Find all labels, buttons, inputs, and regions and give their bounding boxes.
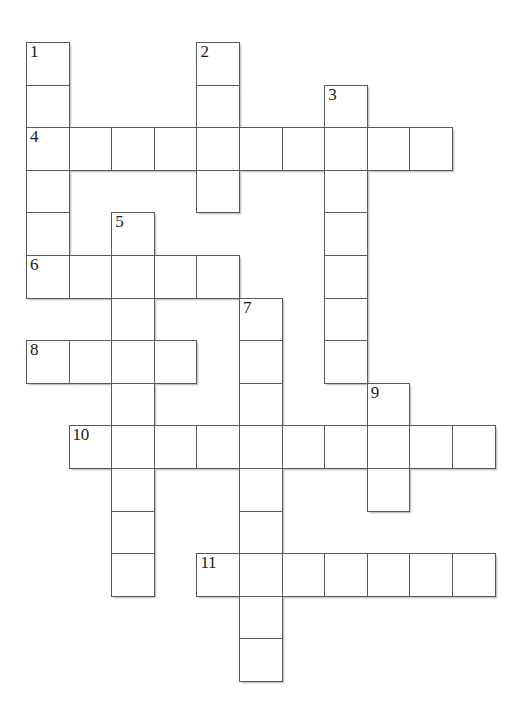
crossword-cell[interactable] — [26, 212, 70, 256]
crossword-cell[interactable] — [69, 127, 113, 171]
crossword-cell[interactable] — [26, 85, 70, 129]
crossword-cell[interactable] — [239, 340, 283, 384]
crossword-cell[interactable] — [239, 127, 283, 171]
crossword-cell[interactable] — [111, 298, 155, 342]
crossword-cell[interactable] — [239, 511, 283, 555]
crossword-cell[interactable]: 6 — [26, 255, 70, 299]
crossword-cell[interactable] — [324, 255, 368, 299]
crossword-cell[interactable] — [239, 425, 283, 469]
crossword-cell[interactable] — [409, 425, 453, 469]
cell-number: 5 — [115, 213, 123, 231]
crossword-cell[interactable] — [409, 127, 453, 171]
cell-number: 2 — [200, 43, 208, 61]
crossword-cell[interactable]: 3 — [324, 85, 368, 129]
crossword-cell[interactable] — [239, 468, 283, 512]
crossword-cell[interactable] — [196, 255, 240, 299]
crossword-cell[interactable] — [111, 468, 155, 512]
crossword-cell[interactable] — [239, 383, 283, 427]
crossword-cell[interactable] — [111, 127, 155, 171]
crossword-cell[interactable] — [324, 553, 368, 597]
crossword-cell[interactable] — [111, 511, 155, 555]
crossword-cell[interactable] — [324, 425, 368, 469]
crossword-cell[interactable] — [239, 596, 283, 640]
cell-number: 4 — [30, 128, 38, 146]
cell-number: 11 — [200, 554, 216, 572]
crossword-cell[interactable] — [196, 425, 240, 469]
cell-number: 8 — [30, 341, 38, 359]
crossword-cell[interactable]: 5 — [111, 212, 155, 256]
crossword-cell[interactable] — [282, 425, 326, 469]
cell-number: 7 — [243, 299, 251, 317]
cell-number: 9 — [371, 384, 379, 402]
crossword-cell[interactable] — [452, 425, 496, 469]
crossword-cell[interactable]: 7 — [239, 298, 283, 342]
cell-number: 10 — [73, 426, 89, 444]
crossword-cell[interactable] — [324, 212, 368, 256]
crossword-cell[interactable] — [154, 127, 198, 171]
crossword-cell[interactable] — [111, 553, 155, 597]
cell-number: 1 — [30, 43, 38, 61]
crossword-cell[interactable] — [409, 553, 453, 597]
crossword-cell[interactable] — [239, 638, 283, 682]
cell-number: 6 — [30, 256, 38, 274]
crossword-cell[interactable] — [324, 340, 368, 384]
crossword-cell[interactable] — [367, 553, 411, 597]
crossword-cell[interactable]: 9 — [367, 383, 411, 427]
crossword-cell[interactable] — [324, 127, 368, 171]
crossword-cell[interactable] — [239, 553, 283, 597]
crossword-cell[interactable] — [282, 127, 326, 171]
crossword-cell[interactable] — [367, 127, 411, 171]
crossword-cell[interactable] — [367, 468, 411, 512]
crossword-cell[interactable] — [154, 425, 198, 469]
crossword-cell[interactable] — [324, 170, 368, 214]
cell-number: 3 — [328, 86, 336, 104]
crossword-grid[interactable]: 1234567891011 — [0, 0, 525, 720]
crossword-cell[interactable] — [367, 425, 411, 469]
crossword-cell[interactable]: 8 — [26, 340, 70, 384]
crossword-cell[interactable]: 11 — [196, 553, 240, 597]
crossword-cell[interactable] — [452, 553, 496, 597]
crossword-cell[interactable] — [111, 425, 155, 469]
crossword-cell[interactable]: 1 — [26, 42, 70, 86]
crossword-cell[interactable] — [111, 383, 155, 427]
crossword-cell[interactable] — [196, 170, 240, 214]
crossword-cell[interactable] — [196, 85, 240, 129]
crossword-cell[interactable] — [111, 255, 155, 299]
crossword-cell[interactable] — [26, 170, 70, 214]
crossword-cell[interactable] — [196, 127, 240, 171]
crossword-puzzle: 1234567891011 — [0, 0, 525, 720]
crossword-cell[interactable] — [111, 340, 155, 384]
crossword-cell[interactable] — [154, 255, 198, 299]
crossword-cell[interactable] — [282, 553, 326, 597]
crossword-cell[interactable] — [324, 298, 368, 342]
crossword-cell[interactable]: 4 — [26, 127, 70, 171]
crossword-cell[interactable] — [154, 340, 198, 384]
crossword-cell[interactable]: 10 — [69, 425, 113, 469]
crossword-cell[interactable] — [69, 255, 113, 299]
crossword-cell[interactable] — [69, 340, 113, 384]
crossword-cell[interactable]: 2 — [196, 42, 240, 86]
